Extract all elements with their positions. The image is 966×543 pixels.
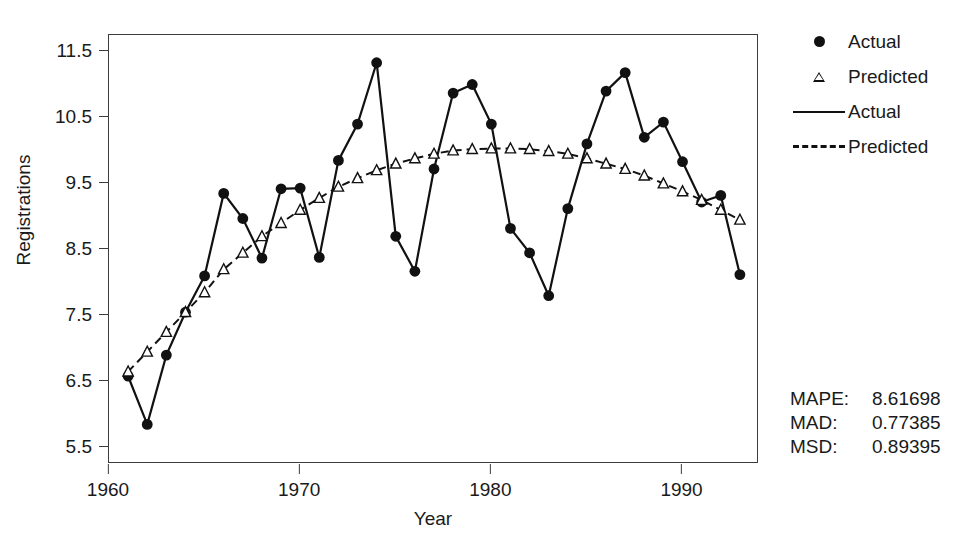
chart-page: Registrations 5.56.57.58.59.510.511.5 19… — [0, 0, 966, 543]
y-tick-label: 5.5 — [66, 436, 92, 458]
legend-item-predicted-line: Predicted — [790, 129, 966, 164]
actual-data-point — [352, 119, 363, 130]
open-triangle-marker-icon — [790, 72, 848, 82]
y-tick-mark — [99, 182, 108, 183]
y-tick-label: 11.5 — [56, 40, 92, 62]
legend-label: Predicted — [848, 66, 928, 88]
y-tick-5-5: 5.5 — [66, 436, 108, 458]
y-axis-title: Registrations — [13, 100, 35, 320]
x-tick-mark — [108, 464, 109, 474]
legend-item-actual-line: Actual — [790, 94, 966, 129]
x-axis-title: Year — [108, 508, 758, 530]
solid-line-icon — [790, 111, 848, 113]
actual-data-point — [390, 231, 401, 242]
x-tick-label: 1970 — [278, 479, 320, 501]
stat-name: MSD: — [790, 436, 872, 458]
actual-data-point — [161, 350, 172, 361]
stat-value: 0.89395 — [872, 436, 941, 458]
predicted-data-point — [295, 204, 305, 214]
legend-label: Actual — [848, 31, 901, 53]
legend-item-actual-marker: Actual — [790, 24, 966, 59]
predicted-data-point — [257, 231, 267, 241]
actual-data-point — [467, 79, 478, 90]
actual-data-point — [276, 183, 287, 194]
actual-data-point — [142, 419, 153, 430]
legend-label: Actual — [848, 101, 901, 123]
actual-data-point — [333, 155, 344, 166]
predicted-line — [128, 149, 740, 372]
actual-data-point — [371, 57, 382, 68]
predicted-data-point — [677, 186, 687, 196]
predicted-data-point — [639, 170, 649, 180]
actual-data-point — [543, 290, 554, 301]
actual-data-point — [524, 247, 535, 258]
accuracy-measures: MAPE: 8.61698 MAD: 0.77385 MSD: 0.89395 — [790, 387, 941, 459]
y-tick-mark — [99, 380, 108, 381]
predicted-data-point — [735, 214, 745, 224]
x-tick-label: 1980 — [469, 479, 511, 501]
actual-data-point — [237, 213, 248, 224]
actual-data-point — [582, 139, 593, 150]
x-tick-1960: 1960 — [87, 464, 129, 501]
y-tick-mark — [99, 116, 108, 117]
actual-data-point — [677, 156, 688, 167]
legend: Actual Predicted Actual Predicted — [790, 24, 966, 164]
dashed-line-icon — [790, 145, 848, 148]
actual-data-point — [658, 117, 669, 128]
actual-line — [128, 63, 740, 425]
actual-data-point — [429, 164, 440, 175]
x-tick-label: 1990 — [660, 479, 702, 501]
y-tick-10-5: 10.5 — [55, 106, 108, 128]
actual-data-point — [486, 119, 497, 130]
y-tick-mark — [99, 50, 108, 51]
y-tick-mark — [99, 446, 108, 447]
y-tick-mark — [99, 248, 108, 249]
actual-data-point — [562, 203, 573, 214]
stat-name: MAPE: — [790, 388, 872, 410]
actual-data-point — [448, 88, 459, 99]
stat-row: MAD: 0.77385 — [790, 411, 941, 435]
y-tick-7-5: 7.5 — [66, 304, 108, 326]
actual-data-point — [199, 271, 210, 282]
clipped-title-strip — [108, 0, 758, 10]
filled-circle-marker-icon — [790, 36, 848, 47]
y-tick-label: 6.5 — [66, 370, 92, 392]
actual-data-point — [314, 252, 325, 263]
x-tick-1990: 1990 — [660, 464, 702, 501]
plot-area — [108, 34, 758, 463]
predicted-data-point — [391, 158, 401, 168]
y-axis: Registrations 5.56.57.58.59.510.511.5 — [0, 0, 108, 497]
x-tick-1980: 1980 — [469, 464, 511, 501]
y-tick-label: 7.5 — [66, 304, 92, 326]
actual-data-point — [505, 223, 516, 234]
x-tick-1970: 1970 — [278, 464, 320, 501]
legend-item-predicted-marker: Predicted — [790, 59, 966, 94]
stat-row: MAPE: 8.61698 — [790, 387, 941, 411]
actual-data-point — [218, 188, 229, 199]
y-tick-label: 10.5 — [55, 106, 92, 128]
y-tick-8-5: 8.5 — [66, 238, 108, 260]
y-tick-11-5: 11.5 — [56, 40, 108, 62]
actual-data-point — [639, 132, 650, 143]
stat-row: MSD: 0.89395 — [790, 435, 941, 459]
actual-data-point — [715, 190, 726, 201]
predicted-data-point — [314, 192, 324, 202]
data-series-layer — [109, 35, 759, 464]
y-tick-mark — [99, 314, 108, 315]
actual-data-point — [409, 266, 420, 277]
actual-data-point — [295, 183, 306, 194]
predicted-data-point — [276, 218, 286, 228]
actual-data-point — [620, 67, 631, 78]
y-tick-6-5: 6.5 — [66, 370, 108, 392]
legend-label: Predicted — [848, 136, 928, 158]
stat-value: 8.61698 — [872, 388, 941, 410]
x-tick-mark — [490, 464, 491, 474]
x-tick-mark — [681, 464, 682, 474]
predicted-data-point — [199, 287, 209, 297]
actual-data-point — [257, 253, 268, 264]
x-tick-mark — [299, 464, 300, 474]
y-tick-label: 8.5 — [66, 238, 92, 260]
stat-value: 0.77385 — [872, 412, 941, 434]
stat-name: MAD: — [790, 412, 872, 434]
y-tick-label: 9.5 — [66, 172, 92, 194]
